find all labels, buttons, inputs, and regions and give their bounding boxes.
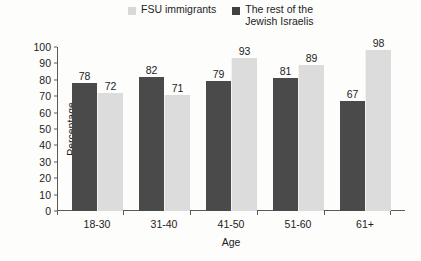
- dark-gray-swatch-icon: [232, 7, 240, 15]
- bar-group-31-40: 82 71 31-40: [139, 47, 189, 211]
- x-tick-label-18-30: 18-30: [84, 218, 111, 230]
- bar-fsu-immigrants-31-40: 71: [164, 95, 190, 211]
- x-tick-mark-4: [324, 211, 325, 215]
- plot-area: Percentage 100 90 80 70 60 50 40 30 20 1…: [57, 47, 405, 211]
- x-tick-mark-2: [190, 211, 191, 215]
- bar-value-fsu-41-50: 93: [239, 45, 251, 57]
- x-tick-label-51-60: 51-60: [285, 218, 312, 230]
- bar-value-fsu-51-60: 89: [306, 52, 318, 64]
- bar-chart: FSU immigrants The rest of the Jewish Is…: [0, 0, 421, 261]
- bar-fsu-immigrants-61-plus: 98: [365, 50, 391, 211]
- light-gray-swatch-icon: [128, 7, 136, 15]
- bar-group-51-60: 81 89 51-60: [273, 47, 323, 211]
- bar-group-18-30: 78 72 18-30: [72, 47, 122, 211]
- bar-value-rest-51-60: 81: [280, 65, 292, 77]
- bar-value-rest-61-plus: 67: [347, 88, 359, 100]
- legend-label-rest-of-jewish-israelis: The rest of the Jewish Israelis: [245, 4, 313, 27]
- bar-value-fsu-61-plus: 98: [373, 37, 385, 49]
- bar-value-fsu-31-40: 71: [172, 82, 184, 94]
- x-tick-label-41-50: 41-50: [218, 218, 245, 230]
- x-tick-label-31-40: 31-40: [151, 218, 178, 230]
- x-tick-label-61-plus: 61+: [356, 218, 374, 230]
- x-axis-title: Age: [222, 236, 241, 248]
- bar-value-rest-31-40: 82: [146, 64, 158, 76]
- bar-rest-of-jewish-israelis-18-30: 78: [72, 83, 97, 211]
- legend-item-fsu-immigrants: FSU immigrants: [128, 4, 216, 16]
- bar-value-rest-41-50: 79: [213, 68, 225, 80]
- bar-value-fsu-18-30: 72: [105, 80, 117, 92]
- x-tick-mark-1: [123, 211, 124, 215]
- x-tick-mark-0: [57, 211, 58, 215]
- y-axis-line: [57, 47, 58, 211]
- bar-value-rest-18-30: 78: [79, 70, 91, 82]
- bar-group-61-plus: 67 98 61+: [340, 47, 390, 211]
- x-tick-mark-5: [390, 211, 391, 215]
- bar-rest-of-jewish-israelis-31-40: 82: [139, 77, 164, 211]
- x-tick-mark-3: [257, 211, 258, 215]
- chart-legend: FSU immigrants The rest of the Jewish Is…: [128, 4, 314, 27]
- bar-fsu-immigrants-51-60: 89: [298, 65, 324, 211]
- legend-label-fsu-immigrants: FSU immigrants: [141, 4, 216, 16]
- bar-rest-of-jewish-israelis-61-plus: 67: [340, 101, 365, 211]
- bar-fsu-immigrants-18-30: 72: [97, 93, 123, 211]
- bar-rest-of-jewish-israelis-51-60: 81: [273, 78, 298, 211]
- bar-fsu-immigrants-41-50: 93: [231, 58, 257, 211]
- bar-rest-of-jewish-israelis-41-50: 79: [206, 81, 231, 211]
- legend-item-rest-of-jewish-israelis: The rest of the Jewish Israelis: [232, 4, 313, 27]
- bar-group-41-50: 79 93 41-50: [206, 47, 256, 211]
